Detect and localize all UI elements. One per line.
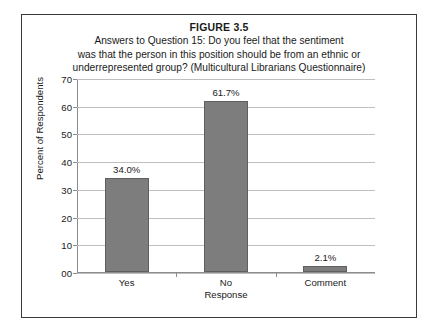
x-axis-tick-label: Yes — [119, 277, 135, 288]
gridline — [77, 273, 375, 274]
y-axis-tick-mark — [73, 273, 77, 274]
bar-value-label: 61.7% — [212, 87, 239, 98]
y-axis-tick-mark — [73, 134, 77, 135]
bar-value-label: 34.0% — [113, 164, 140, 175]
y-axis-tick-label: 30 — [61, 184, 72, 195]
x-axis-title: Response — [77, 289, 375, 300]
y-axis-tick-mark — [73, 245, 77, 246]
gridline — [77, 79, 375, 80]
figure-frame: FIGURE 3.5 Answers to Question 15: Do yo… — [21, 14, 417, 318]
y-axis-tick-mark — [73, 162, 77, 163]
y-axis-tick-label: 50 — [61, 129, 72, 140]
bar — [303, 266, 347, 272]
x-axis-tick-label: No — [220, 277, 232, 288]
y-axis-tick-mark — [73, 107, 77, 108]
x-axis-tick-label: Comment — [305, 277, 347, 288]
y-axis-tick-labels: 0010203040506070 — [50, 79, 72, 273]
y-axis-tick-label: 40 — [61, 157, 72, 168]
y-axis-tick-label: 70 — [61, 74, 72, 85]
y-axis-tick-mark — [73, 79, 77, 80]
bar — [204, 101, 248, 272]
y-axis-tick-label: 00 — [61, 268, 72, 279]
y-axis-tick-mark — [73, 218, 77, 219]
y-axis-title: Percent of Respondents — [34, 49, 45, 209]
bar — [105, 178, 149, 272]
bar-chart: Percent of Respondents 0010203040506070 … — [22, 15, 418, 319]
y-axis-tick-label: 20 — [61, 212, 72, 223]
plot-area: 34.0%61.7%2.1% — [77, 79, 375, 273]
y-axis-line — [77, 79, 78, 273]
y-axis-tick-label: 60 — [61, 101, 72, 112]
bar-value-label: 2.1% — [314, 252, 336, 263]
y-axis-tick-label: 10 — [61, 240, 72, 251]
y-axis-tick-mark — [73, 190, 77, 191]
